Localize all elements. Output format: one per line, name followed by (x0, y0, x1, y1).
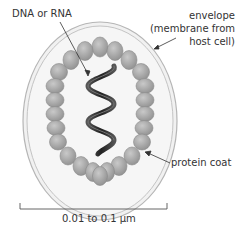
scale-label: 0.01 to 0.1 µm (62, 213, 136, 224)
envelope-label-line2: (membrane from (150, 23, 235, 34)
envelope-label-line1: envelope (189, 10, 235, 21)
envelope-label-line3: host cell) (189, 36, 235, 47)
genome-label: DNA or RNA (12, 8, 72, 19)
protein-coat-label: protein coat (171, 157, 231, 168)
virus-diagram: DNA or RNA envelope (membrane from host … (0, 0, 237, 234)
